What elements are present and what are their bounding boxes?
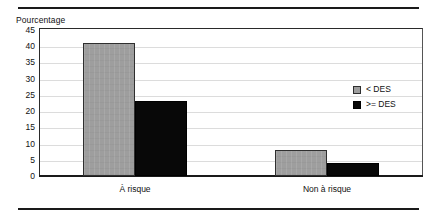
figure-bottom-rule — [18, 208, 419, 210]
gridline — [40, 128, 422, 129]
y-axis-tick-label: 25 — [13, 91, 35, 100]
chart-legend: < DES >= DES — [353, 82, 431, 112]
legend-swatch-icon — [353, 101, 361, 109]
legend-swatch-icon — [353, 86, 361, 94]
gridline — [40, 63, 422, 64]
chart-plot: 454035302520151050 < DES >= DES — [13, 28, 423, 180]
y-axis-tick-label: 10 — [13, 140, 35, 149]
legend-item-label: >= DES — [366, 100, 396, 109]
y-axis-tick-label: 30 — [13, 75, 35, 84]
gridline — [40, 80, 422, 81]
y-axis-tick-label: 45 — [13, 26, 35, 35]
y-axis-tick-label: 20 — [13, 107, 35, 116]
figure-top-rule — [18, 7, 419, 9]
x-axis-category-label: Non à risque — [303, 184, 351, 195]
y-axis-tick-label: 5 — [13, 156, 35, 165]
gridline — [40, 112, 422, 113]
legend-item-label: < DES — [366, 85, 391, 94]
y-axis-tick-label: 0 — [13, 172, 35, 181]
y-axis-tick-label: 40 — [13, 42, 35, 51]
legend-item-0: < DES — [353, 82, 431, 97]
x-axis-category-labels: À risqueNon à risque — [39, 184, 423, 198]
gridline — [40, 161, 422, 162]
y-axis-tick-label: 35 — [13, 58, 35, 67]
gridline — [40, 47, 422, 48]
gridline — [40, 145, 422, 146]
x-axis-category-label: À risque — [119, 184, 150, 195]
legend-item-1: >= DES — [353, 97, 431, 112]
x-axis-baseline — [39, 175, 423, 177]
y-axis-title: Pourcentage — [16, 15, 65, 25]
y-axis-tick-labels: 454035302520151050 — [13, 28, 35, 180]
y-axis-tick-label: 15 — [13, 123, 35, 132]
